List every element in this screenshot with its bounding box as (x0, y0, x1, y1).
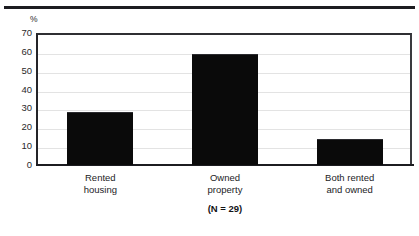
y-axis-unit-label: % (30, 14, 38, 24)
y-axis-tick-label: 50 (6, 66, 32, 76)
y-axis-tick-label: 40 (6, 85, 32, 95)
top-rule-divider (4, 6, 415, 9)
y-axis-tick-label: 70 (6, 28, 32, 38)
category-label-line: Both rented (275, 172, 419, 184)
y-axis-tick-labels: 706050403020100 (0, 33, 32, 165)
x-axis-category-labels: RentedhousingOwnedpropertyBoth rentedand… (38, 172, 412, 202)
bar (317, 139, 383, 165)
x-axis-category-label: Both rentedand owned (275, 172, 419, 196)
bar (67, 112, 133, 165)
y-axis-tick-label: 60 (6, 47, 32, 57)
y-axis-tick-label: 10 (6, 141, 32, 151)
category-label-line: and owned (275, 184, 419, 196)
bar (192, 54, 258, 165)
bar-chart-figure: % 706050403020100 RentedhousingOwnedprop… (0, 0, 419, 236)
bars-container (38, 33, 412, 165)
sample-size-annotation: (N = 29) (151, 203, 300, 215)
y-axis-tick-label: 0 (6, 160, 32, 170)
y-axis-tick-label: 30 (6, 103, 32, 113)
y-axis-tick-label: 20 (6, 122, 32, 132)
